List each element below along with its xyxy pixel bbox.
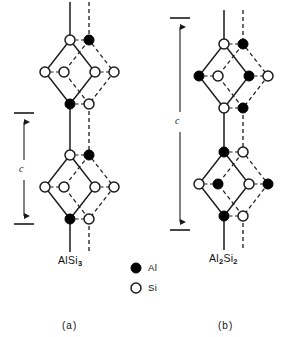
panel-a-c-axis-label: c xyxy=(19,164,23,174)
legend-filled-circle-icon xyxy=(131,263,141,273)
atom-si xyxy=(84,214,94,224)
atom-si xyxy=(59,67,69,77)
atom-si xyxy=(213,71,223,81)
panel-b-formula: Al2Si2 xyxy=(209,253,238,264)
legend-label-si: Si xyxy=(148,283,157,293)
atom-si xyxy=(40,67,50,77)
atom-si xyxy=(90,67,100,77)
panel-b-c-axis-label: c xyxy=(175,116,179,126)
atom-al xyxy=(263,179,273,189)
atom-al xyxy=(65,214,75,224)
atom-al xyxy=(65,99,75,109)
panel-b-lower-unit xyxy=(194,147,273,221)
panel-a-upper-unit xyxy=(40,35,119,109)
atom-si xyxy=(263,71,273,81)
atom-si xyxy=(109,67,119,77)
atom-al xyxy=(219,211,229,221)
panel-a-caption: (a) xyxy=(62,321,77,331)
panel-a-structure xyxy=(14,2,119,252)
atom-al xyxy=(213,179,223,189)
legend-label-al: Al xyxy=(148,263,157,273)
panel-a-formula-sub: 3 xyxy=(78,259,82,268)
panel-a-formula-main: AlSi xyxy=(58,254,78,266)
atom-si xyxy=(65,35,75,45)
atom-al xyxy=(194,71,204,81)
panel-b-upper-unit xyxy=(194,39,273,113)
atom-si xyxy=(219,39,229,49)
figure-root: c c AlSi3 Al2Si2 Al Si (a) (b) xyxy=(0,0,297,337)
atom-al xyxy=(84,150,94,160)
atom-si xyxy=(84,99,94,109)
atom-si xyxy=(194,179,204,189)
panel-b-formula-sub-2: 2 xyxy=(233,257,237,266)
atom-al xyxy=(84,35,94,45)
atom-si xyxy=(40,182,50,192)
atom-al xyxy=(238,39,248,49)
atom-si xyxy=(244,179,254,189)
panel-a-lower-unit xyxy=(40,150,119,224)
panel-b-caption: (b) xyxy=(218,321,233,331)
atom-si xyxy=(65,150,75,160)
panel-b-formula-mid: Si xyxy=(223,252,233,264)
atom-al xyxy=(238,103,248,113)
atom-si xyxy=(59,182,69,192)
legend-symbols xyxy=(131,263,141,293)
atom-si xyxy=(238,211,248,221)
atom-si xyxy=(109,182,119,192)
panel-a-formula: AlSi3 xyxy=(58,255,82,266)
panel-b-formula-sub-1: 2 xyxy=(219,257,223,266)
atom-si xyxy=(90,182,100,192)
atom-al xyxy=(219,147,229,157)
panel-b-formula-main: Al xyxy=(209,252,219,264)
legend-open-circle-icon xyxy=(131,283,141,293)
atom-si xyxy=(238,147,248,157)
atom-al xyxy=(244,71,254,81)
panel-a-c-axis xyxy=(14,113,34,224)
panel-b-c-axis xyxy=(170,18,190,230)
atom-si xyxy=(219,103,229,113)
panel-b-structure xyxy=(170,10,273,250)
